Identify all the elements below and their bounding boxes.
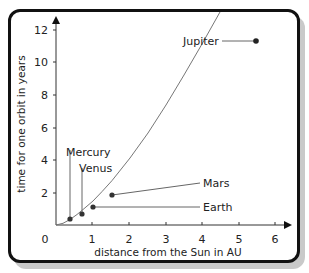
label-mars: Mars — [203, 177, 230, 190]
y-tick-label: 8 — [41, 89, 48, 102]
point-mars — [109, 192, 114, 197]
label-venus: Venus — [79, 162, 112, 175]
label-earth: Earth — [203, 201, 233, 214]
y-tick-label: 2 — [41, 187, 48, 200]
point-venus — [79, 211, 84, 216]
label-mercury: Mercury — [66, 146, 111, 159]
x-tick-label: 4 — [199, 233, 206, 246]
x-tick-label: 3 — [163, 233, 170, 246]
point-mercury — [67, 216, 72, 221]
y-tick-label: 6 — [41, 122, 48, 135]
chart: 0 1 2 3 4 5 6 2 4 6 8 10 12 distance fro… — [0, 0, 309, 273]
leader-lines — [70, 41, 256, 219]
point-jupiter — [253, 38, 259, 44]
point-earth — [90, 204, 95, 209]
x-tick-label: 2 — [126, 233, 133, 246]
x-tick-label: 1 — [89, 233, 96, 246]
x-tick-label: 6 — [272, 233, 279, 246]
label-jupiter: Jupiter — [182, 35, 219, 48]
origin-label: 0 — [42, 233, 49, 246]
y-tick-label: 12 — [34, 24, 48, 37]
y-tick-label: 4 — [41, 154, 48, 167]
y-axis-title: time for one orbit in years — [15, 55, 27, 192]
x-tick-label: 5 — [236, 233, 243, 246]
x-axis-title: distance from the Sun in AU — [94, 246, 241, 258]
y-tick-label: 10 — [34, 56, 48, 69]
